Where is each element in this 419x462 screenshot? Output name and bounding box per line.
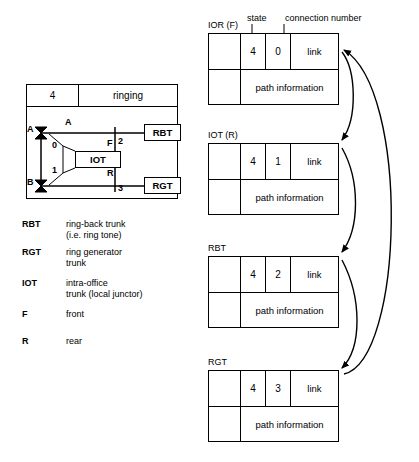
circuit-schematic: IOT RBT RGT A B A F R 0 1 2 3: [27, 107, 177, 198]
record-cell-blank: [209, 257, 241, 292]
record-title: RGT: [208, 357, 227, 367]
legend-description: ring generator trunk: [66, 247, 197, 269]
link-arrow-ior-to-iot: [342, 52, 353, 140]
record-title: IOT (R): [208, 130, 238, 140]
record-cell-connection: 0: [266, 34, 291, 69]
record-iot-r: IOT (R) 4 1 link path information: [208, 143, 339, 215]
legend-item: RGT ring generator trunk: [22, 247, 197, 278]
junctor-rear-label: R: [107, 168, 114, 179]
legend-description: intra-office trunk (local junctor): [66, 278, 197, 300]
record-cell-path-information: path information: [241, 70, 338, 104]
record-row-path: path information: [209, 180, 338, 214]
state-caption: state: [247, 13, 267, 24]
record-cell-connection: 1: [266, 144, 291, 179]
record-cell-blank: [209, 34, 241, 69]
bus-a-label: A: [65, 117, 72, 128]
record-row-header: 4 3 link: [209, 371, 338, 407]
legend-item: R rear: [22, 336, 197, 356]
record-grid: 4 2 link path information: [208, 256, 339, 328]
record-cell-blank: [209, 144, 241, 179]
record-cell-state: 4: [241, 144, 266, 179]
record-row-header: 4 0 link: [209, 34, 338, 70]
link-arrow-rbt-to-rgt: [342, 260, 357, 368]
record-cell-blank: [209, 407, 241, 441]
record-grid: 4 0 link path information: [208, 33, 339, 105]
record-grid: 4 3 link path information: [208, 370, 339, 442]
call-state-header-row: 4 ringing: [27, 85, 177, 107]
record-cell-blank: [209, 180, 241, 214]
record-cell-connection: 2: [266, 257, 291, 292]
call-state-number: 4: [27, 85, 79, 106]
port-1-label: 1: [52, 165, 57, 176]
record-title: RBT: [208, 243, 226, 253]
port-3-label: 3: [118, 183, 123, 194]
record-row-header: 4 2 link: [209, 257, 338, 293]
rgt-trunk-box: RGT: [144, 177, 181, 194]
legend: RBT ring-back trunk (i.e. ring tone) RGT…: [22, 219, 197, 356]
legend-item: IOT intra-office trunk (local junctor): [22, 278, 197, 309]
record-cell-path-information: path information: [241, 407, 338, 441]
record-row-path: path information: [209, 70, 338, 104]
record-row-header: 4 1 link: [209, 144, 338, 180]
rbt-trunk-box: RBT: [144, 124, 181, 141]
record-cell-state: 4: [241, 34, 266, 69]
diagram-canvas: 4 ringing: [0, 0, 419, 462]
legend-abbr: F: [22, 309, 60, 319]
record-row-path: path information: [209, 293, 338, 327]
link-arrow-rgt-to-ior: [344, 50, 391, 374]
legend-item: RBT ring-back trunk (i.e. ring tone): [22, 219, 197, 247]
port-0-label: 0: [52, 140, 57, 151]
record-ior-f: IOR (F) 4 0 link path information: [208, 33, 339, 105]
record-cell-blank: [209, 70, 241, 104]
legend-description: ring-back trunk (i.e. ring tone): [66, 219, 197, 241]
record-cell-path-information: path information: [241, 180, 338, 214]
legend-description: rear: [66, 336, 197, 347]
record-title: IOR (F): [208, 20, 238, 30]
legend-abbr: IOT: [22, 278, 60, 288]
link-chain-arrows: [330, 30, 419, 430]
iot-junctor-box: IOT: [75, 151, 121, 168]
record-cell-blank: [209, 371, 241, 406]
record-cell-path-information: path information: [241, 293, 338, 327]
legend-abbr: RGT: [22, 247, 60, 257]
legend-item: F front: [22, 309, 197, 336]
record-cell-connection: 3: [266, 371, 291, 406]
link-arrow-iot-to-rbt: [342, 148, 356, 252]
call-state-panel: 4 ringing: [26, 84, 178, 199]
legend-abbr: R: [22, 336, 60, 346]
record-rbt: RBT 4 2 link path information: [208, 256, 339, 328]
port-2-label: 2: [118, 136, 123, 147]
record-grid: 4 1 link path information: [208, 143, 339, 215]
record-row-path: path information: [209, 407, 338, 441]
subscriber-b-label: B: [27, 177, 34, 188]
record-cell-blank: [209, 293, 241, 327]
record-cell-state: 4: [241, 257, 266, 292]
legend-description: front: [66, 309, 197, 320]
call-state-name: ringing: [79, 85, 177, 106]
record-rgt: RGT 4 3 link path information: [208, 370, 339, 442]
junctor-front-label: F: [107, 138, 113, 149]
legend-abbr: RBT: [22, 219, 60, 229]
connection-number-caption: connection number: [285, 13, 362, 24]
subscriber-a-label: A: [27, 124, 34, 135]
record-cell-state: 4: [241, 371, 266, 406]
